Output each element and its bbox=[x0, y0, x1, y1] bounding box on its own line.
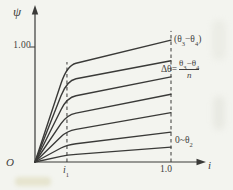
annotation-zero-theta2: 0~θ2 bbox=[175, 136, 193, 146]
num-sub2: 4 bbox=[196, 64, 199, 71]
fraction-numerator: θ3−θ4 bbox=[179, 59, 199, 68]
x-axis-arrow-icon bbox=[197, 159, 207, 165]
ann-top-open: (θ bbox=[174, 34, 182, 44]
ann-bottom-base: 0~θ bbox=[175, 135, 189, 145]
annotation-theta-range: (θ3−θ4) bbox=[174, 35, 201, 45]
ann-top-mid: −θ bbox=[185, 34, 195, 44]
x-axis-label: i bbox=[208, 160, 211, 171]
x-tick-label-i1: i1 bbox=[63, 165, 69, 175]
delta-theta-prefix: Δθ= bbox=[161, 65, 177, 75]
magnetization-curve-figure: ψ 1.00 O i1 1.0 i (θ3−θ4) Δθ= θ3−θ4 n 0~… bbox=[0, 0, 233, 190]
x-tick-i1-sub: 1 bbox=[66, 171, 69, 178]
curve-0-theta2 bbox=[35, 147, 171, 162]
x-tick-label-1.0: 1.0 bbox=[160, 165, 172, 175]
chart-canvas bbox=[0, 0, 233, 190]
ann-bottom-sub: 2 bbox=[189, 141, 192, 148]
ann-top-sub1: 3 bbox=[182, 40, 185, 47]
y-axis-arrow-icon bbox=[32, 5, 38, 15]
fraction-denominator: n bbox=[187, 71, 192, 80]
origin-label: O bbox=[6, 157, 14, 168]
annotation-delta-theta: Δθ= θ3−θ4 n bbox=[161, 59, 199, 80]
delta-theta-fraction: θ3−θ4 n bbox=[179, 59, 199, 80]
ann-top-sub2: 4 bbox=[195, 40, 198, 47]
y-axis-label: ψ bbox=[13, 5, 21, 18]
num-sub1: 3 bbox=[183, 64, 186, 71]
num-mid: −θ bbox=[187, 58, 196, 68]
curve-step-2 bbox=[35, 61, 171, 162]
y-tick-label-1.00: 1.00 bbox=[6, 41, 31, 51]
curve-family bbox=[35, 40, 171, 162]
ann-top-close: ) bbox=[198, 34, 201, 44]
curve-theta3-theta4 bbox=[35, 40, 171, 162]
